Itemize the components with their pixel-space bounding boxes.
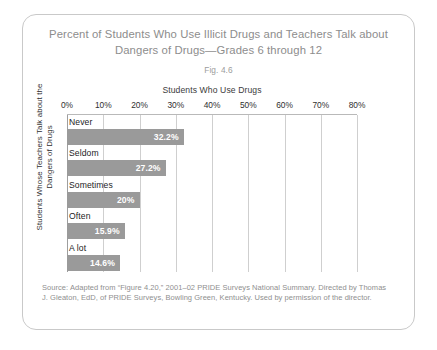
category-label: A lot [69,242,86,254]
x-tick-label: 40% [204,100,220,110]
bar-group: Often15.9% [67,209,357,240]
x-tick-label: 30% [168,100,184,110]
title-block: Percent of Students Who Use Illicit Drug… [23,15,414,75]
bar: 32.2% [67,129,184,145]
x-tick-label: 80% [349,100,365,110]
x-tick-label: 20% [131,100,147,110]
bar: 15.9% [67,223,125,239]
chart-area: Students Who Use Drugs Students Whose Te… [23,85,416,275]
bar: 14.6% [67,255,120,271]
x-tick-label: 0% [61,100,73,110]
figure-card: Percent of Students Who Use Illicit Drug… [22,14,415,330]
plot-region: Never32.2%Seldom27.2%Sometimes20%Often15… [67,114,357,272]
category-label: Seldom [69,147,99,159]
bar: 27.2% [67,160,166,176]
category-label: Often [69,210,91,222]
bar-group: Seldom27.2% [67,146,357,177]
bar-group: A lot14.6% [67,241,357,272]
bar-value-label: 14.6% [90,255,115,271]
y-axis-title: Students Whose Teachers Talk about the D… [35,77,55,237]
bar: 20% [67,192,140,208]
source-note: Source: Adapted from “Figure 4.20,” 2001… [42,283,394,304]
x-tick-label: 70% [313,100,329,110]
bar-group: Never32.2% [67,115,357,146]
category-label: Sometimes [69,179,113,191]
x-tick-label: 50% [240,100,256,110]
page-title: Percent of Students Who Use Illicit Drug… [23,26,414,58]
bar-series: Never32.2%Seldom27.2%Sometimes20%Often15… [67,115,357,272]
x-axis-tick-labels: 0%10%20%30%40%50%60%70%80% [67,100,357,113]
bar-value-label: 15.9% [95,223,120,239]
x-axis-title: Students Who Use Drugs [67,85,357,95]
x-tick-label: 60% [276,100,292,110]
gridline [357,115,358,272]
x-tick-label: 10% [95,100,111,110]
bar-group: Sometimes20% [67,178,357,209]
bar-value-label: 20% [117,192,135,208]
bar-value-label: 32.2% [154,129,179,145]
figure-number: Fig. 4.6 [23,65,414,75]
category-label: Never [69,116,92,128]
bar-value-label: 27.2% [136,160,161,176]
